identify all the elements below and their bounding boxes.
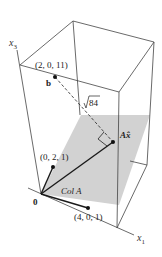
point-ax-hat bbox=[111, 140, 115, 144]
col-a-label: Col A bbox=[61, 186, 82, 196]
col2-coords: (4, 0, 1) bbox=[74, 212, 103, 222]
ax-hat-label: Ax̂ bbox=[119, 130, 131, 140]
x3-axis bbox=[17, 50, 41, 194]
point-col2 bbox=[86, 206, 90, 210]
point-b bbox=[53, 75, 57, 79]
distance-radicand: 84 bbox=[89, 98, 99, 108]
x3-axis-label: x3 bbox=[8, 37, 17, 51]
point-col1 bbox=[51, 165, 55, 169]
col1-coords: (0, 2, 1) bbox=[40, 152, 69, 162]
x1-axis-label: x1 bbox=[136, 232, 145, 246]
point-b-label: b bbox=[46, 78, 51, 88]
least-squares-diagram: x3 x1 (2, 0, 11) b 84 Ax̂ (0, 2, 1) Col … bbox=[0, 0, 162, 257]
distance-label: 84 bbox=[84, 96, 100, 108]
origin-label: 0 bbox=[33, 197, 38, 207]
point-b-coords: (2, 0, 11) bbox=[35, 60, 68, 70]
